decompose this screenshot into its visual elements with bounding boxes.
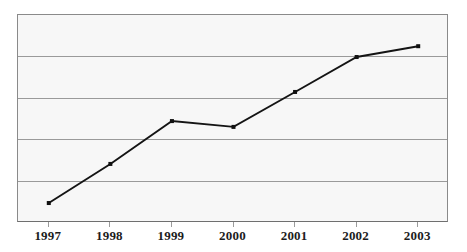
- series-1-markers: [47, 44, 420, 205]
- x-tick-2000: [233, 222, 234, 227]
- x-tick-2002: [356, 222, 357, 227]
- x-axis-label-2001: 2001: [281, 228, 308, 244]
- x-tick-2001: [294, 222, 295, 227]
- series-plot: [18, 15, 449, 223]
- data-point-1998: [108, 162, 112, 166]
- data-point-2000: [232, 125, 236, 129]
- x-axis-label-2003: 2003: [404, 228, 431, 244]
- x-axis-label-1998: 1998: [96, 228, 123, 244]
- line-chart: 1997199819992000200120022003: [0, 0, 467, 252]
- x-tick-1997: [48, 222, 49, 227]
- x-axis-label-1999: 1999: [157, 228, 184, 244]
- x-tick-2003: [417, 222, 418, 227]
- x-axis-label-2000: 2000: [219, 228, 246, 244]
- x-tick-1998: [109, 222, 110, 227]
- data-point-2003: [416, 44, 420, 48]
- x-axis-label-1997: 1997: [34, 228, 61, 244]
- series-1-line: [49, 46, 418, 203]
- data-point-2002: [355, 55, 359, 59]
- x-axis-label-2002: 2002: [342, 228, 369, 244]
- plot-area: [17, 14, 448, 222]
- x-axis-labels: 1997199819992000200120022003: [17, 228, 448, 248]
- data-point-2001: [293, 90, 297, 94]
- data-point-1999: [170, 119, 174, 123]
- data-point-1997: [47, 201, 51, 205]
- x-tick-1999: [171, 222, 172, 227]
